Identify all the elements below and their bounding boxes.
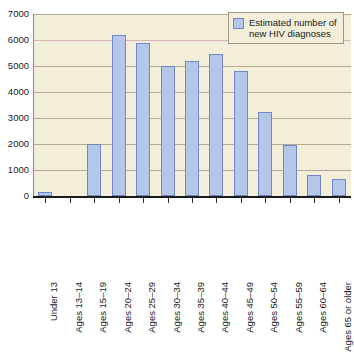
bar-slot	[204, 14, 228, 196]
bar-slot	[57, 14, 81, 196]
y-tick-label: 5000	[8, 61, 29, 70]
x-tick	[94, 198, 95, 203]
bar-slot	[180, 14, 204, 196]
bar	[185, 61, 199, 196]
x-axis-label: Ages 20–24	[123, 282, 133, 333]
x-tick	[290, 198, 291, 203]
x-tick	[265, 198, 266, 203]
y-tick-label: 1000	[8, 165, 29, 174]
x-axis-label: Ages 60–64	[318, 282, 328, 333]
bar-slot	[33, 14, 57, 196]
x-axis-label: Under 13	[49, 282, 59, 321]
bar	[332, 179, 346, 196]
bar	[112, 35, 126, 196]
y-axis: 01000200030004000500060007000	[0, 0, 33, 200]
x-axis-labels: Under 13Ages 13–14Ages 15–19Ages 20–24Ag…	[33, 200, 351, 285]
legend-label: Estimated number of new HIV diagnoses	[249, 17, 337, 39]
x-tick	[45, 198, 46, 203]
bar	[283, 145, 297, 196]
x-axis-label: Ages 15–19	[98, 282, 108, 333]
legend: Estimated number of new HIV diagnoses	[228, 12, 344, 44]
bar-slot	[155, 14, 179, 196]
y-tick-label: 0	[24, 191, 29, 200]
x-tick	[192, 198, 193, 203]
y-tick-label: 2000	[8, 139, 29, 148]
x-axis-label: Ages 13–14	[74, 282, 84, 333]
x-tick	[70, 198, 71, 203]
bar	[87, 144, 101, 196]
x-tick	[168, 198, 169, 203]
x-tick	[119, 198, 120, 203]
x-tick	[339, 198, 340, 203]
x-axis-label: Ages 45–49	[245, 282, 255, 333]
legend-swatch-icon	[233, 18, 244, 29]
bar	[258, 112, 272, 197]
x-axis-label: Ages 50–54	[269, 282, 279, 333]
x-axis-label: Ages 25–29	[147, 282, 157, 333]
bar	[209, 54, 223, 196]
bar-slot	[131, 14, 155, 196]
x-axis-label: Ages 30–34	[172, 282, 182, 333]
y-tick-label: 6000	[8, 35, 29, 44]
x-axis-label: Ages 55–59	[294, 282, 304, 333]
bar-slot	[106, 14, 130, 196]
x-tick	[241, 198, 242, 203]
x-axis-label: Ages 65 or older	[343, 282, 353, 352]
bar	[307, 175, 321, 196]
y-tick-label: 4000	[8, 87, 29, 96]
bar	[136, 43, 150, 196]
y-tick-label: 7000	[8, 9, 29, 18]
y-tick-label: 3000	[8, 113, 29, 122]
x-axis-label: Ages 40–44	[220, 282, 230, 333]
x-axis-label: Ages 35–39	[196, 282, 206, 333]
x-tick	[143, 198, 144, 203]
x-tick	[314, 198, 315, 203]
bar	[234, 71, 248, 196]
bar-slot	[82, 14, 106, 196]
x-tick	[216, 198, 217, 203]
bar	[161, 66, 175, 196]
